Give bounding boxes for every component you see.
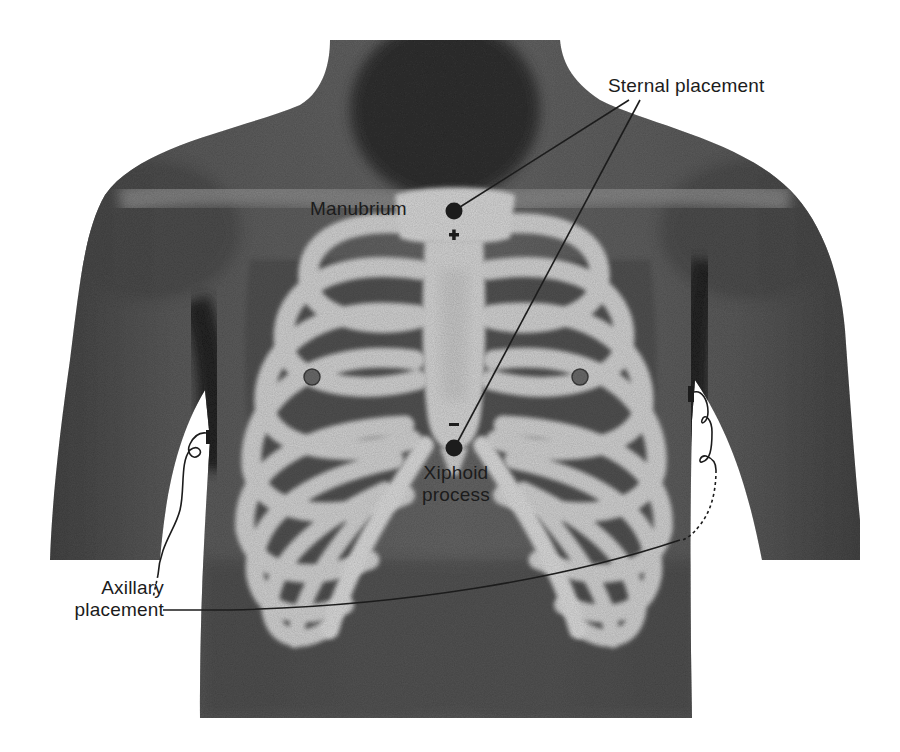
xiphoid-label-line2: process	[408, 484, 504, 506]
manubrium-label: Manubrium	[310, 198, 407, 220]
manubrium-electrode	[446, 203, 463, 220]
right-axillary-electrode	[206, 430, 210, 444]
left-axillary-electrode	[688, 386, 694, 402]
xiphoid-process-label: Xiphoid process	[408, 462, 504, 506]
negative-polarity-icon	[449, 423, 459, 426]
xiphoid-electrode	[446, 440, 463, 457]
right-nipple	[304, 369, 320, 385]
chest-electrode-placement-diagram	[0, 0, 900, 752]
axillary-label-line1: Axillary	[60, 577, 164, 599]
xiphoid-label-line1: Xiphoid	[408, 462, 504, 484]
axillary-placement-label: Axillary placement	[60, 577, 164, 621]
sternal-placement-label: Sternal placement	[608, 75, 765, 97]
torso-illustration	[50, 20, 860, 720]
left-nipple	[572, 369, 588, 385]
axillary-label-line2: placement	[60, 599, 164, 621]
